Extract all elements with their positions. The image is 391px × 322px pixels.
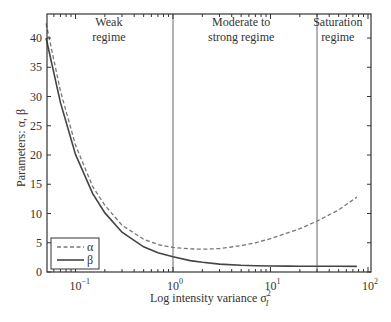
x-axis-label-sup: 2 [267, 289, 271, 298]
regime-boundary-lines [173, 14, 317, 272]
legend: α β [51, 238, 99, 269]
y-tick-label: 30 [30, 90, 42, 104]
x-tick-label: 10−1 [70, 277, 91, 293]
y-tick-label: 20 [30, 148, 42, 162]
axis-ticks [47, 14, 371, 272]
plot-frame [47, 14, 371, 272]
x-axis-label: Log intensity variance σ2I [150, 289, 271, 308]
chart: 0510152025303540 10−1100101102 Weakregim… [0, 0, 391, 322]
y-tick-label: 15 [30, 177, 42, 191]
y-tick-label: 5 [36, 236, 42, 250]
y-tick-label: 0 [36, 265, 42, 279]
regime-annotations: WeakregimeModerate tostrong regimeSatura… [92, 15, 362, 44]
regime-annotation: Weak [95, 15, 122, 29]
y-tick-label: 40 [30, 31, 42, 45]
y-tick-label: 10 [30, 207, 42, 221]
y-tick-label: 25 [30, 119, 42, 133]
beta-curve [46, 38, 357, 266]
y-axis-label: Parameters: α, β [14, 109, 28, 187]
legend-alpha-label: α [87, 240, 94, 254]
regime-annotation: Saturation [313, 15, 362, 29]
x-axis-label-sub: I [265, 299, 269, 308]
regime-annotation: regime [321, 30, 354, 44]
legend-beta-label: β [87, 253, 93, 267]
alpha-curve [46, 23, 357, 249]
x-axis-label-main: Log intensity variance σ [150, 291, 267, 305]
y-tick-labels: 0510152025303540 [30, 31, 42, 279]
y-tick-label: 35 [30, 60, 42, 74]
regime-annotation: regime [92, 30, 125, 44]
regime-annotation: strong regime [208, 30, 274, 44]
series-lines [46, 23, 357, 266]
regime-annotation: Moderate to [212, 15, 270, 29]
x-tick-label: 102 [362, 277, 378, 293]
